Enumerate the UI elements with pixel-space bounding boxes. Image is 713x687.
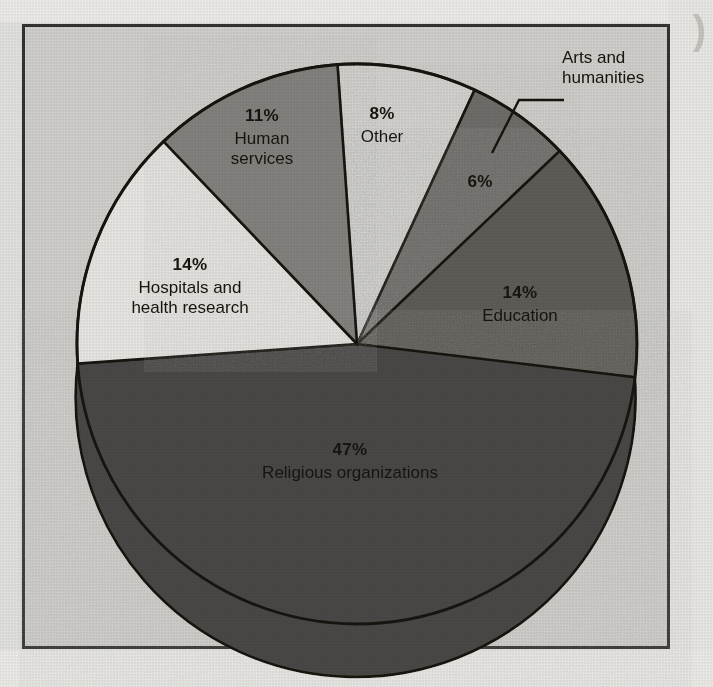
pie-slice-religious[interactable] — [76, 344, 636, 677]
pie-chart — [0, 0, 713, 687]
screenshot-page: ) — [0, 0, 713, 687]
